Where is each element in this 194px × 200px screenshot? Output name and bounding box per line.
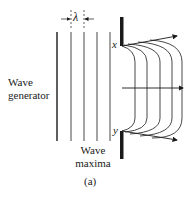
lambda-label: λ: [73, 11, 78, 24]
figure-caption: (a): [84, 175, 96, 188]
point-x-label: x: [112, 38, 117, 51]
wave-maxima-label: Wave maxima: [73, 144, 113, 170]
wave-generator-label: Wave generator: [8, 76, 50, 102]
wave-generator-line1: Wave: [8, 76, 50, 89]
point-y-label: y: [113, 124, 118, 137]
top-ray-arrow: [122, 36, 177, 46]
diffracted-wavefronts: [122, 40, 182, 138]
wave-maxima-line2: maxima: [73, 157, 113, 170]
wave-maxima-lines: [57, 32, 110, 141]
wave-maxima-line1: Wave: [73, 144, 113, 157]
wave-generator-line2: generator: [8, 89, 50, 102]
